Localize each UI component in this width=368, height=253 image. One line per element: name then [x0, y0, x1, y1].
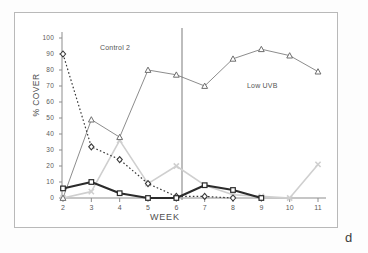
- y-tick-label: 90: [36, 50, 54, 57]
- x-tick-label: 2: [53, 204, 73, 211]
- panel-letter: d: [345, 230, 352, 245]
- x-tick-label: 6: [166, 204, 186, 211]
- marker-square: [231, 188, 236, 193]
- x-axis-title: WEEK: [150, 212, 180, 222]
- marker-square: [61, 186, 66, 191]
- y-tick-label: 50: [36, 114, 54, 121]
- marker-triangle: [230, 56, 236, 61]
- chart-svg: [0, 0, 368, 253]
- y-tick-label: 0: [36, 194, 54, 201]
- marker-diamond: [89, 144, 94, 150]
- marker-triangle: [88, 117, 94, 122]
- y-tick-label: 100: [36, 34, 54, 41]
- y-tick-label: 40: [36, 130, 54, 137]
- marker-square: [117, 191, 122, 196]
- annotation-low-uvb: Low UVB: [247, 82, 278, 89]
- x-tick-label: 8: [223, 204, 243, 211]
- annotation-control-2: Control 2: [100, 44, 130, 51]
- marker-x: [174, 163, 179, 168]
- series-line: [63, 54, 233, 198]
- marker-triangle: [117, 134, 123, 139]
- marker-square: [259, 196, 264, 201]
- marker-triangle: [315, 69, 321, 74]
- y-tick-label: 20: [36, 162, 54, 169]
- series-series-diamond-dotted: [60, 51, 235, 201]
- marker-diamond: [117, 157, 122, 163]
- marker-square: [146, 196, 151, 201]
- marker-diamond: [60, 51, 65, 57]
- marker-square: [174, 196, 179, 201]
- x-tick-label: 10: [280, 204, 300, 211]
- marker-square: [89, 180, 94, 185]
- series-line: [63, 140, 318, 198]
- x-tick-label: 11: [308, 204, 328, 211]
- marker-triangle: [258, 46, 264, 51]
- x-tick-label: 5: [138, 204, 158, 211]
- marker-x: [315, 162, 320, 167]
- x-tick-label: 9: [251, 204, 271, 211]
- x-tick-label: 4: [110, 204, 130, 211]
- y-tick-label: 70: [36, 82, 54, 89]
- x-tick-label: 3: [81, 204, 101, 211]
- y-tick-label: 10: [36, 178, 54, 185]
- y-tick-label: 60: [36, 98, 54, 105]
- x-tick-label: 7: [195, 204, 215, 211]
- chart-plot-area: [0, 0, 368, 253]
- y-tick-label: 30: [36, 146, 54, 153]
- y-tick-label: 80: [36, 66, 54, 73]
- marker-triangle: [145, 67, 151, 72]
- figure-panel: % COVER WEEK Control 2 Low UVB d 0102030…: [0, 0, 368, 253]
- marker-square: [202, 183, 207, 188]
